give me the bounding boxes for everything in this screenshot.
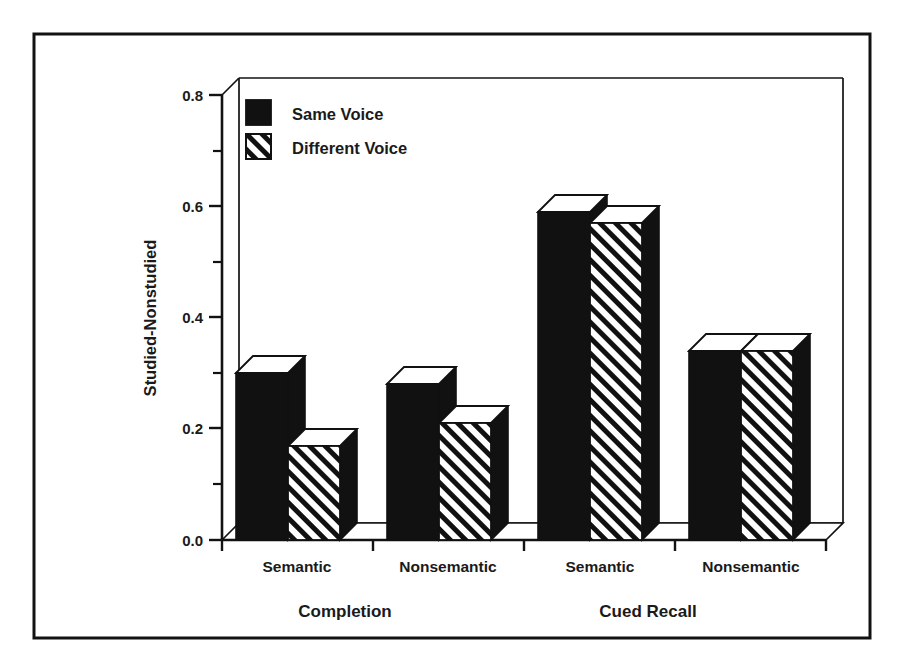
bar-front <box>236 373 288 540</box>
bar-group-completion-semantic <box>236 356 357 540</box>
legend: Same Voice Different Voice <box>246 100 407 159</box>
bar-front <box>689 351 741 540</box>
y-tick-label-0.6: 0.6 <box>182 198 203 215</box>
x-group-label-cued-recall: Cued Recall <box>599 602 696 621</box>
y-tick-label-0.8: 0.8 <box>182 87 203 104</box>
plot-depth-edge-top <box>222 78 239 95</box>
bar-group-completion-nonsemantic <box>387 367 508 540</box>
bar-side <box>491 406 508 540</box>
bar-different-voice-cued-recall-semantic[interactable] <box>590 206 659 540</box>
y-tick-label-0.4: 0.4 <box>182 309 204 326</box>
y-axis-title: Studied-Nonstudied <box>141 240 159 397</box>
bar-different-voice-cued-recall-nonsemantic[interactable] <box>741 334 810 540</box>
y-tick-label-0.2: 0.2 <box>182 420 203 437</box>
y-axis: 0.8 0.6 0.4 0.2 0.0 Studied-Nonstudied <box>141 87 222 549</box>
bar-front <box>590 223 642 540</box>
x-category-label-2: Semantic <box>566 558 635 575</box>
bar-group-cued-recall-semantic <box>538 195 659 540</box>
bar-front <box>288 446 340 540</box>
bar-front <box>387 384 439 540</box>
bar-front <box>538 212 590 540</box>
x-category-label-1: Nonsemantic <box>399 558 497 575</box>
legend-swatch-hatch-icon <box>246 134 271 159</box>
legend-swatch-solid-icon <box>246 100 271 125</box>
bar-chart: 0.8 0.6 0.4 0.2 0.0 Studied-Nonstudied S… <box>0 0 899 671</box>
y-tick-label-0.0: 0.0 <box>182 532 203 549</box>
x-category-label-0: Semantic <box>263 558 332 575</box>
legend-label-different-voice: Different Voice <box>292 139 407 157</box>
legend-label-same-voice: Same Voice <box>292 105 383 123</box>
figure-root: 0.8 0.6 0.4 0.2 0.0 Studied-Nonstudied S… <box>0 0 899 671</box>
x-group-label-completion: Completion <box>298 602 392 621</box>
bar-group-cued-recall-nonsemantic <box>689 334 810 540</box>
bar-side <box>642 206 659 540</box>
bar-different-voice-completion-nonsemantic[interactable] <box>439 406 508 540</box>
x-category-label-3: Nonsemantic <box>702 558 800 575</box>
bar-front <box>741 351 793 540</box>
bar-front <box>439 423 491 540</box>
legend-item-same-voice[interactable]: Same Voice <box>246 100 383 125</box>
bar-side <box>340 429 357 540</box>
bar-side <box>793 334 810 540</box>
legend-item-different-voice[interactable]: Different Voice <box>246 134 407 159</box>
x-axis: Semantic Nonsemantic Semantic Nonsemanti… <box>222 540 826 621</box>
bar-different-voice-completion-semantic[interactable] <box>288 429 357 540</box>
